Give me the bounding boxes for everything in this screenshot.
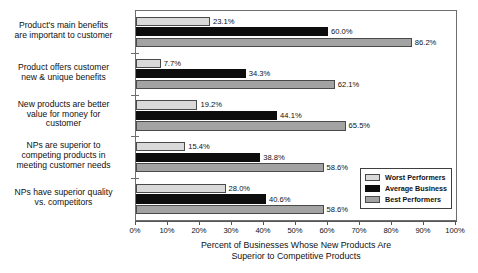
x-tick-label-2: 20% (191, 226, 206, 235)
legend-item-worst-performers: Worst Performers (365, 172, 447, 183)
legend-swatch-average-business (365, 185, 380, 192)
bar-row: 60.0% (136, 27, 456, 36)
bar-chart: Product's main benefitsare important to … (0, 0, 478, 273)
x-tick-3 (231, 221, 232, 225)
legend-item-best-performers: Best Performers (365, 194, 447, 205)
bar-value-label: 7.7% (164, 59, 181, 68)
bar-value-label: 23.1% (213, 17, 235, 26)
bar-best-3 (136, 163, 324, 172)
x-tick-label-1: 10% (159, 226, 174, 235)
bar-value-label: 62.1% (338, 80, 360, 89)
category-tick-4 (131, 178, 139, 179)
bar-worst-2 (136, 100, 197, 109)
bar-row: 62.1% (136, 80, 456, 89)
bar-group-2: 19.2%44.1%65.5% (136, 95, 456, 137)
category-label-line: meeting customer needs (0, 161, 127, 171)
bar-value-label: 19.2% (200, 100, 222, 109)
bar-value-label: 58.6% (327, 163, 349, 172)
x-tick-2 (199, 221, 200, 225)
legend-label-best-performers: Best Performers (385, 195, 441, 204)
bar-value-label: 28.0% (229, 184, 251, 193)
bar-avg-2 (136, 111, 277, 120)
bar-value-label: 34.3% (249, 69, 271, 78)
bar-value-label: 40.6% (269, 195, 291, 204)
category-tick-3 (131, 136, 139, 137)
bar-value-label: 58.6% (327, 205, 349, 214)
x-tick-label-7: 70% (351, 226, 366, 235)
x-tick-6 (327, 221, 328, 225)
category-label-3: NPs are superior tocompeting products in… (0, 141, 127, 171)
legend-swatch-worst-performers (365, 174, 380, 181)
x-tick-label-0: 0% (130, 226, 141, 235)
bar-avg-3 (136, 153, 260, 162)
x-tick-8 (391, 221, 392, 225)
bar-avg-0 (136, 27, 328, 36)
x-axis-title-line-2: Superior to Competitive Products (135, 251, 457, 262)
x-axis-title-line-1: Percent of Businesses Whose New Products… (135, 240, 457, 251)
legend-item-average-business: Average Business (365, 183, 447, 194)
bar-best-2 (136, 121, 346, 130)
x-axis-line (135, 221, 457, 222)
x-tick-label-8: 80% (383, 226, 398, 235)
bar-value-label: 15.4% (188, 142, 210, 151)
bar-row: 86.2% (136, 38, 456, 47)
category-label-line: are important to customer (0, 31, 127, 41)
bar-value-label: 44.1% (280, 111, 302, 120)
x-tick-1 (167, 221, 168, 225)
category-label-0: Product's main benefitsare important to … (0, 21, 127, 41)
x-tick-label-4: 40% (255, 226, 270, 235)
category-label-line: customer (0, 119, 127, 129)
bar-group-0: 23.1%60.0%86.2% (136, 11, 456, 53)
bar-avg-4 (136, 194, 266, 203)
x-tick-label-10: 100% (445, 226, 464, 235)
bar-row: 19.2% (136, 100, 456, 109)
x-tick-label-5: 50% (287, 226, 302, 235)
legend-label-average-business: Average Business (385, 184, 447, 193)
bar-worst-4 (136, 184, 226, 193)
bar-value-label: 60.0% (331, 27, 353, 36)
bar-row: 34.3% (136, 69, 456, 78)
bar-row: 38.8% (136, 153, 456, 162)
x-tick-4 (263, 221, 264, 225)
category-label-4: NPs have superior qualityvs. competitors (0, 188, 127, 208)
bar-value-label: 65.5% (349, 121, 371, 130)
bar-best-4 (136, 205, 324, 214)
category-label-2: New products are bettervalue for money f… (0, 100, 127, 130)
bar-worst-0 (136, 17, 210, 26)
bar-row: 65.5% (136, 121, 456, 130)
x-axis-title: Percent of Businesses Whose New Products… (135, 240, 457, 261)
bar-group-1: 7.7%34.3%62.1% (136, 53, 456, 95)
legend: Worst Performers Average Business Best P… (360, 168, 452, 209)
category-label-line: new & unique benefits (0, 73, 127, 83)
bar-row: 23.1% (136, 17, 456, 26)
bar-row: 44.1% (136, 111, 456, 120)
bar-row: 15.4% (136, 142, 456, 151)
x-tick-label-3: 30% (223, 226, 238, 235)
x-tick-7 (359, 221, 360, 225)
legend-label-worst-performers: Worst Performers (385, 173, 446, 182)
bar-value-label: 86.2% (415, 38, 437, 47)
bar-worst-3 (136, 142, 185, 151)
bar-worst-1 (136, 59, 161, 68)
x-tick-9 (423, 221, 424, 225)
bar-value-label: 38.8% (263, 153, 285, 162)
category-label-1: Product offers customernew & unique bene… (0, 63, 127, 83)
x-tick-label-9: 90% (415, 226, 430, 235)
category-axis-labels: Product's main benefitsare important to … (0, 10, 131, 221)
bar-best-0 (136, 38, 412, 47)
bar-row: 7.7% (136, 59, 456, 68)
x-tick-5 (295, 221, 296, 225)
legend-swatch-best-performers (365, 196, 380, 203)
x-tick-0 (135, 221, 136, 225)
bar-avg-1 (136, 69, 246, 78)
bar-best-1 (136, 80, 335, 89)
x-tick-label-6: 60% (319, 226, 334, 235)
category-tick-2 (131, 95, 139, 96)
category-tick-1 (131, 53, 139, 54)
x-tick-10 (455, 221, 456, 225)
category-label-line: vs. competitors (0, 198, 127, 208)
